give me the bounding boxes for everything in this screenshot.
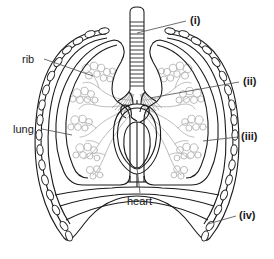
label-lung: lung — [13, 124, 34, 135]
label-roman-i: (i) — [190, 15, 200, 26]
label-roman-ii: (ii) — [243, 76, 256, 87]
label-roman-iv: (iv) — [239, 210, 256, 221]
label-rib: rib — [22, 54, 34, 65]
thorax-diagram — [0, 0, 274, 259]
label-heart: heart — [127, 196, 152, 207]
label-roman-iii: (iii) — [241, 131, 258, 142]
diagram-page: rib lung heart (i) (ii) (iii) (iv) — [0, 0, 274, 259]
